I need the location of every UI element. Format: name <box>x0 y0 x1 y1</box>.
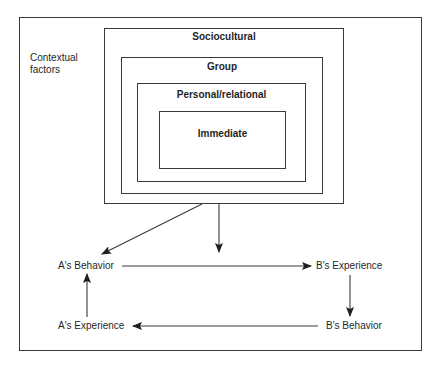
node-a-behavior: A's Behavior <box>58 260 114 271</box>
node-b-behavior: B's Behavior <box>326 320 382 331</box>
arrows-layer <box>0 0 439 365</box>
node-a-experience: A's Experience <box>58 320 124 331</box>
arrow-context-to-a-behavior <box>102 204 202 254</box>
node-b-experience: B's Experience <box>316 260 382 271</box>
